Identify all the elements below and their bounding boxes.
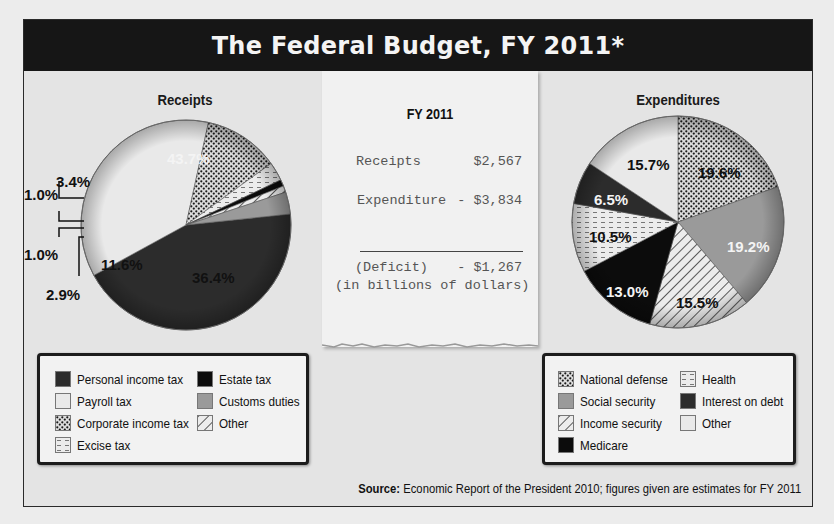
legend-item-interest-on-debt: Interest on debt (680, 392, 792, 410)
legend-item-social-security: Social security (558, 392, 664, 410)
source-text: Economic Report of the President 2010; f… (403, 482, 801, 496)
slice-label: 3.4% (56, 173, 90, 190)
black-swatch-icon (558, 437, 574, 453)
slice-label: 13.0% (606, 283, 649, 300)
legend-item-customs-duties: Customs duties (197, 392, 309, 410)
expenditure-value: - $3,834 (457, 193, 522, 208)
slice-label: 43.7% (167, 150, 210, 167)
gray-swatch-icon (197, 393, 213, 409)
receipts-legend: Personal income tax Payroll tax Corporat… (37, 353, 309, 465)
light-swatch-icon (55, 393, 71, 409)
expenditures-pie: 19.6%19.2%15.5%13.0%10.5%6.5%15.7% (572, 116, 784, 328)
receipts-value: $2,567 (473, 154, 522, 169)
legend-item-national-defense: National defense (558, 370, 678, 388)
hatch-swatch-icon (558, 415, 574, 431)
legend-item-other: Other (197, 414, 252, 432)
source-note: Source: Economic Report of the President… (358, 482, 801, 496)
receipts-pie: 43.7%36.4%11.6%2.9%1.0%1.0%3.4% (24, 120, 291, 330)
dots-swatch-icon (55, 415, 71, 431)
slice-label: 1.0% (24, 186, 58, 203)
slice-label: 6.5% (594, 191, 628, 208)
legend-item-medicare: Medicare (558, 436, 633, 454)
slice-label: 19.2% (727, 238, 770, 255)
units-note: (in billions of dollars) (335, 278, 529, 293)
receipt-slip: FY 2011 Receipts $2,567 Expenditure - $3… (322, 71, 538, 347)
dash-swatch-icon (55, 437, 71, 453)
legend-item-corporate-income-tax: Corporate income tax (55, 414, 201, 432)
legend-item-other: Other (680, 414, 735, 432)
slice-label: 1.0% (24, 246, 58, 263)
legend-item-health: Health (680, 370, 740, 388)
torn-edge (322, 342, 538, 352)
legend-item-estate-tax: Estate tax (197, 370, 277, 388)
expenditure-label: Expenditure (357, 193, 446, 208)
sum-rule (360, 251, 523, 252)
dark-swatch-icon (680, 393, 696, 409)
dash-swatch-icon (680, 371, 696, 387)
slice-label: 15.7% (627, 156, 670, 173)
hatch-swatch-icon (197, 415, 213, 431)
slice-label: 11.6% (101, 256, 143, 273)
slice-label: 15.5% (676, 294, 719, 311)
legend-item-payroll-tax: Payroll tax (55, 392, 138, 410)
slice-label: 36.4% (192, 269, 235, 286)
receipt-slip-heading: FY 2011 (333, 106, 527, 122)
deficit-value: - $1,267 (457, 260, 522, 275)
gray-swatch-icon (558, 393, 574, 409)
slice-label: 2.9% (46, 286, 80, 303)
slice-label: 10.5% (589, 228, 632, 245)
legend-item-personal-income-tax: Personal income tax (55, 370, 195, 388)
legend-item-excise-tax: Excise tax (55, 436, 136, 454)
slice-label: 19.6% (698, 164, 741, 181)
dark-swatch-icon (55, 371, 71, 387)
receipts-label: Receipts (356, 154, 421, 169)
light-swatch-icon (680, 415, 696, 431)
black-swatch-icon (197, 371, 213, 387)
source-label: Source: (358, 482, 400, 496)
deficit-label: (Deficit) (355, 260, 428, 275)
receipts-leader-lines (59, 181, 84, 276)
dots-swatch-icon (558, 371, 574, 387)
legend-item-income-security: Income security (558, 414, 671, 432)
expenditures-legend: National defense Social security Income … (542, 353, 796, 465)
